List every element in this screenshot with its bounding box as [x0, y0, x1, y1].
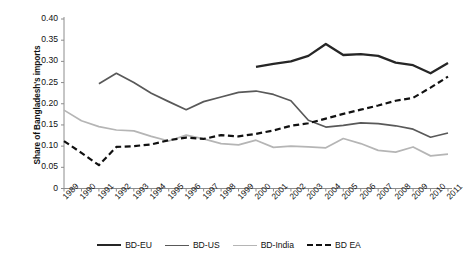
legend-item-bd-us[interactable]: BD-US — [165, 240, 220, 250]
legend-label: BD-US — [193, 240, 220, 250]
x-tick-label: 1998 — [218, 182, 237, 201]
legend-swatch-icon — [233, 245, 257, 246]
x-tick-label: 1990 — [78, 182, 97, 201]
x-tick-label: 1993 — [131, 182, 150, 201]
x-tick-label: 1989 — [61, 182, 80, 201]
x-tick-label: 2003 — [305, 182, 324, 201]
x-tick-label: 2011 — [445, 182, 464, 201]
x-tick-label: 1997 — [201, 182, 220, 201]
legend-item-bd-ea[interactable]: BD EA — [307, 240, 361, 250]
x-tick-label: 1991 — [96, 182, 115, 201]
x-tick-label: 2005 — [340, 182, 359, 201]
legend-swatch-icon — [165, 245, 189, 246]
legend-item-bd-india[interactable]: BD-India — [233, 240, 294, 250]
legend-swatch-icon — [307, 244, 331, 246]
x-tick-label: 1994 — [148, 182, 167, 201]
x-tick-label: 2006 — [358, 182, 377, 201]
legend-label: BD-India — [261, 240, 294, 250]
x-tick-label: 2010 — [428, 182, 447, 201]
legend-label: BD EA — [335, 240, 361, 250]
legend-item-bd-eu[interactable]: BD-EU — [97, 240, 152, 250]
x-tick-label: 2002 — [288, 182, 307, 201]
x-tick-label: 1992 — [113, 182, 132, 201]
x-tick-label: 2007 — [375, 182, 394, 201]
x-tick-label: 2008 — [393, 182, 412, 201]
x-tick-label: 2001 — [270, 182, 289, 201]
x-tick-label: 2009 — [410, 182, 429, 201]
legend-swatch-icon — [97, 244, 121, 246]
legend-label: BD-EU — [125, 240, 152, 250]
x-tick-label: 2000 — [253, 182, 272, 201]
x-tick-label: 1996 — [183, 182, 202, 201]
x-tick-label: 1995 — [166, 182, 185, 201]
chart-legend: BD-EUBD-USBD-IndiaBD EA — [0, 240, 458, 250]
x-tick-label: 2004 — [323, 182, 342, 201]
x-tick-label: 1999 — [236, 182, 255, 201]
